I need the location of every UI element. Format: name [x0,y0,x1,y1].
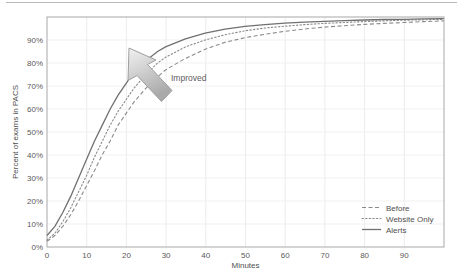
y-tick-label: 0% [31,243,43,252]
x-tick-label: 90 [400,251,409,260]
y-tick-label: 90% [27,36,43,45]
x-tick-label: 20 [122,251,131,260]
y-tick-label: 50% [27,128,43,137]
legend-label-before: Before [386,204,410,213]
y-tick-label: 60% [27,105,43,114]
x-tick-label: 70 [320,251,329,260]
legend-label-alerts: Alerts [386,226,406,235]
y-tick-label: 30% [27,174,43,183]
x-tick-label: 10 [82,251,91,260]
y-axis-tick-labels: 0% 10% 20% 30% 40% 50% 60% 70% 80% 90% [27,36,43,252]
x-tick-label: 30 [162,251,171,260]
x-tick-label: 0 [45,251,50,260]
x-tick-label: 60 [281,251,290,260]
x-axis-tick-labels: 0 10 20 30 40 50 60 70 80 90 [45,251,410,260]
y-tick-label: 10% [27,220,43,229]
legend-label-website-only: Website Only [386,215,433,224]
improved-annotation-label: Improved [171,73,207,83]
chart-page: 0% 10% 20% 30% 40% 50% 60% 70% 80% 90% 0… [0,0,463,275]
x-axis-title: Minutes [231,261,259,270]
line-chart: 0% 10% 20% 30% 40% 50% 60% 70% 80% 90% 0… [0,0,463,275]
y-tick-label: 70% [27,82,43,91]
x-tick-label: 80 [360,251,369,260]
chart-container: 0% 10% 20% 30% 40% 50% 60% 70% 80% 90% 0… [0,0,463,275]
x-tick-label: 40 [201,251,210,260]
y-tick-label: 80% [27,59,43,68]
y-axis-title: Percent of exams in PACS [11,85,20,179]
x-tick-label: 50 [241,251,250,260]
y-tick-label: 20% [27,197,43,206]
y-tick-label: 40% [27,151,43,160]
